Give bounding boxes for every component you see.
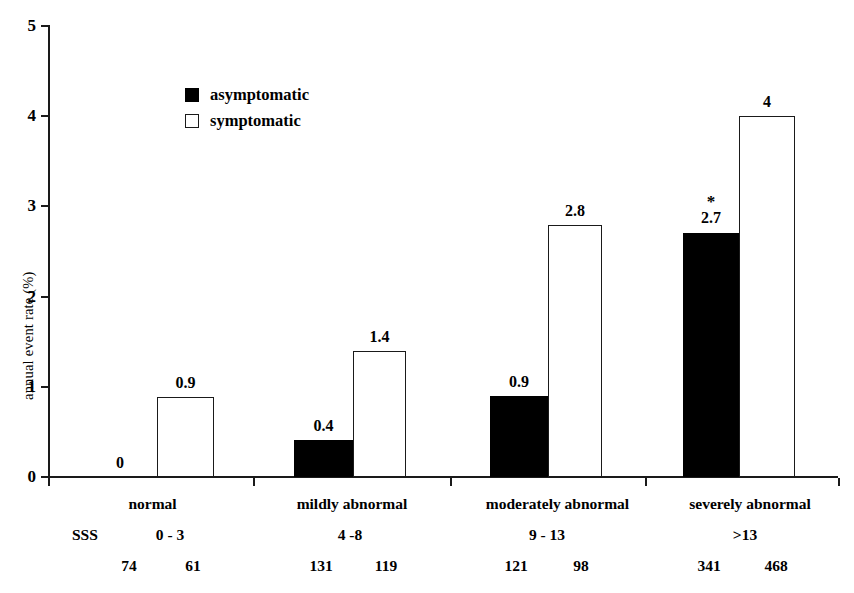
bar-label-g2-asymptomatic: 0.4 [292, 418, 355, 434]
bar-label-g2-symptomatic: 1.4 [350, 329, 409, 345]
y-tick-5 [41, 25, 49, 27]
count-g4-symptomatic: 468 [745, 557, 807, 575]
y-tick-1 [41, 386, 49, 388]
bar-label-g3-symptomatic: 2.8 [545, 203, 605, 219]
bar-g3-symptomatic [548, 225, 602, 477]
bar-chart: 5 4 3 2 1 0 annual event rate (%) asympt… [0, 0, 854, 593]
sss-value-severely-abnormal: >13 [700, 526, 790, 544]
bar-g2-asymptomatic [294, 440, 353, 477]
y-tick-3 [41, 205, 49, 207]
legend-swatch-filled-icon [185, 88, 199, 102]
bar-label-g3-asymptomatic: 0.9 [488, 374, 550, 390]
bar-g1-symptomatic [157, 397, 214, 477]
legend-label-symptomatic: symptomatic [210, 111, 301, 131]
category-label-normal: normal [90, 495, 215, 513]
y-tick-label-0: 0 [8, 468, 36, 485]
legend-swatch-open-icon [185, 114, 199, 128]
x-tick-3 [645, 478, 647, 486]
count-g3-symptomatic: 98 [550, 557, 612, 575]
bar-g2-symptomatic [353, 351, 406, 477]
count-g1-asymptomatic: 74 [98, 557, 160, 575]
x-tick-2 [450, 478, 452, 486]
bar-g4-symptomatic [739, 116, 795, 477]
y-axis-title: annual event rate (%) [20, 271, 37, 400]
count-g3-asymptomatic: 121 [485, 557, 547, 575]
count-g2-asymptomatic: 131 [290, 557, 352, 575]
sss-row-label: SSS [72, 526, 98, 544]
bar-label-g1-asymptomatic: 0 [100, 455, 140, 471]
x-tick-0 [48, 478, 50, 486]
y-tick-2 [41, 296, 49, 298]
x-tick-4 [838, 478, 840, 486]
sss-value-normal: 0 - 3 [125, 526, 215, 544]
count-g4-asymptomatic: 341 [678, 557, 740, 575]
y-tick-label-3: 3 [8, 197, 36, 214]
bar-g3-asymptomatic [490, 396, 548, 477]
bar-label-g1-symptomatic: 0.9 [155, 375, 216, 391]
count-g1-symptomatic: 61 [162, 557, 224, 575]
y-axis-line [48, 25, 50, 477]
x-tick-1 [253, 478, 255, 486]
legend: asymptomatic symptomatic [185, 82, 309, 134]
y-tick-label-5: 5 [8, 17, 36, 34]
category-label-severely-abnormal: severely abnormal [670, 495, 830, 513]
count-g2-symptomatic: 119 [355, 557, 417, 575]
bar-significance-star-g4: * [681, 193, 741, 210]
category-label-moderately-abnormal: moderately abnormal [470, 495, 645, 513]
sss-value-mildly-abnormal: 4 -8 [305, 526, 395, 544]
category-label-mildly-abnormal: mildly abnormal [282, 495, 422, 513]
legend-label-asymptomatic: asymptomatic [210, 85, 309, 105]
y-tick-4 [41, 115, 49, 117]
y-tick-label-4: 4 [8, 107, 36, 124]
bar-label-g4-symptomatic: 4 [737, 94, 797, 110]
legend-item-asymptomatic: asymptomatic [185, 82, 309, 108]
bar-g4-asymptomatic [683, 233, 739, 477]
legend-item-symptomatic: symptomatic [185, 108, 309, 134]
bar-label-g4-asymptomatic: 2.7 [681, 210, 741, 226]
sss-value-moderately-abnormal: 9 - 13 [502, 526, 592, 544]
